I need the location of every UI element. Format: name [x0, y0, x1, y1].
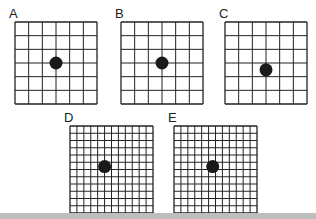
- bottom-bar: [0, 213, 316, 219]
- panel-label-d: D: [64, 111, 73, 124]
- dot-marker: [50, 57, 63, 70]
- dot-marker: [260, 63, 273, 76]
- dot-marker: [156, 57, 169, 70]
- grid-e: [173, 125, 258, 214]
- panel-label-c: C: [219, 7, 228, 20]
- panel-label-b: B: [115, 7, 124, 20]
- grid-b: [120, 21, 204, 105]
- dot-marker: [98, 160, 111, 173]
- grid-c: [224, 21, 308, 105]
- panel-label-a: A: [9, 7, 18, 20]
- grid-d: [69, 125, 154, 214]
- dot-marker: [206, 160, 219, 173]
- panel-label-e: E: [168, 111, 177, 124]
- grid-a: [14, 21, 98, 105]
